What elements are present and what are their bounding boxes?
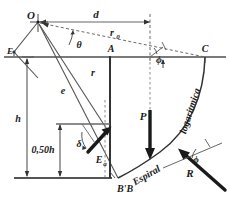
radius-r0-arrow [41, 23, 49, 28]
label-angle-phi-top: ϕ [156, 54, 162, 65]
dimension-halfh-arrow-top [58, 124, 62, 130]
label-angle-delta: δ [76, 138, 81, 149]
label-force-r: R [185, 167, 193, 179]
origin-point-marker [37, 21, 40, 24]
label-curve-espiral: Espiral [130, 163, 163, 188]
label-point-a: A [107, 43, 115, 54]
dimension-halfh-arrow-bottom [58, 171, 62, 177]
dimension-arrow-right [144, 20, 150, 25]
delta-reference-line [82, 124, 95, 143]
radius-r0-line [40, 23, 205, 57]
label-radius-r0: r [110, 27, 114, 38]
label-height-h: h [15, 113, 21, 124]
label-origin-o: O [27, 9, 35, 21]
label-point-e-left: E [6, 46, 13, 56]
dimension-h-arrow-top [25, 58, 29, 64]
label-radius-r0-subscript: 0 [116, 33, 120, 41]
label-force-p: P [140, 110, 147, 122]
label-distance-d: d [93, 8, 99, 20]
phi-bottom-tick [205, 139, 210, 147]
phi-top-tick [162, 42, 166, 50]
label-angle-phi-bottom: ϕ [193, 154, 199, 165]
label-force-ea: E [95, 154, 103, 165]
logarithmic-spiral-diagram: O d r 0 θ A C ϕ r e h 0,50h δ E a P R ϕ … [0, 0, 230, 198]
left-polygon [14, 22, 38, 78]
label-eccentricity-e: e [61, 85, 66, 96]
label-height-half-h: 0,50h [31, 144, 55, 155]
angle-delta-arc [82, 132, 86, 148]
label-force-ea-subscript: a [103, 160, 107, 168]
label-curve-logaritmica: logaritmica [177, 87, 202, 135]
dimension-h-arrow-bottom [25, 171, 29, 177]
label-radius-r: r [91, 67, 95, 78]
label-angle-theta: θ [76, 39, 82, 50]
eccentricity-e-line [39, 24, 110, 134]
label-point-c: C [202, 43, 209, 54]
label-point-b: B'B [116, 183, 133, 194]
